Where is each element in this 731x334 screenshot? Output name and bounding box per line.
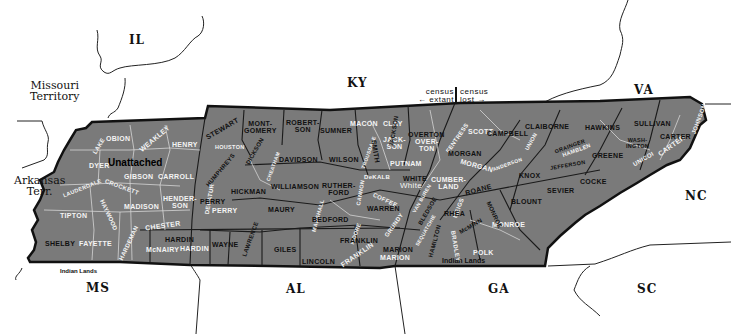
county-morgan: MORGAN bbox=[448, 150, 482, 157]
county-hawkins: HAWKINS bbox=[585, 124, 620, 131]
county-wayne: WAYNE bbox=[212, 241, 239, 248]
county-hardin: HARDIN bbox=[165, 236, 194, 243]
county-shelby: SHELBY bbox=[45, 240, 75, 247]
county-giles: GILES bbox=[274, 246, 297, 253]
county-montgomery-l2: GOMERY bbox=[244, 127, 277, 134]
county-davidson: DAVIDSON bbox=[279, 156, 318, 163]
county-greene: GREENE bbox=[592, 152, 623, 159]
county-robertson-l1: ROBERT- bbox=[286, 119, 320, 126]
census-divider bbox=[455, 87, 457, 104]
county-hardin-modern: HARDIN bbox=[180, 245, 209, 252]
county-robertson-l2: SON bbox=[286, 126, 320, 133]
county-houston: HOUSTON bbox=[215, 145, 245, 151]
county-overton-l2: TON bbox=[415, 145, 439, 152]
county-claiborne: CLAIBORNE bbox=[525, 123, 569, 130]
label-ky: KY bbox=[347, 77, 368, 89]
label-ga: GA bbox=[488, 283, 510, 295]
county-montgomery: MONT- GOMERY bbox=[244, 120, 277, 134]
county-washington-l2: INGTON bbox=[626, 144, 649, 150]
label-missouri-territory: Missouri Territory bbox=[30, 80, 80, 102]
county-gibson: GIBSON bbox=[124, 173, 153, 180]
label-unattached: Unattached bbox=[108, 158, 162, 168]
county-blount: BLOUNT bbox=[511, 198, 542, 205]
county-cocke: COCKE bbox=[580, 178, 607, 185]
county-williamson: WILLIAMSON bbox=[271, 183, 319, 190]
county-dekalb: DeKALB bbox=[364, 174, 390, 180]
county-carroll: CARROLL bbox=[158, 173, 194, 180]
county-macon: MACON bbox=[350, 120, 378, 127]
county-cumberland-l2: LAND bbox=[431, 183, 466, 190]
county-knox: KNOX bbox=[519, 172, 540, 179]
county-marion: MARION bbox=[383, 246, 413, 253]
county-overton: OVERTON bbox=[408, 131, 445, 138]
county-bedford: BEDFORD bbox=[312, 216, 349, 223]
county-hickman: HICKMAN bbox=[231, 188, 266, 195]
label-indian-lands-east: Indian Lands bbox=[442, 257, 485, 264]
census-extant-note: census ← extant bbox=[418, 88, 454, 105]
census-right-line2: lost → bbox=[460, 96, 488, 104]
label-sc: SC bbox=[637, 283, 657, 295]
county-polk: POLK bbox=[473, 249, 494, 256]
census-left-line2: ← extant bbox=[418, 96, 454, 104]
county-rutherford-l1: RUTHER- bbox=[322, 182, 356, 189]
county-overton-l1: OVER- bbox=[415, 138, 439, 145]
county-henry: HENRY bbox=[172, 141, 198, 148]
county-marion-modern: MARION bbox=[380, 254, 410, 261]
label-indian-lands-west: Indian Lands bbox=[60, 268, 97, 274]
label-va: VA bbox=[634, 84, 654, 96]
county-montgomery-l1: MONT- bbox=[244, 120, 277, 127]
county-rhea: RHEA bbox=[444, 210, 465, 217]
county-campbell: CAMPBELL bbox=[487, 130, 528, 137]
label-al: AL bbox=[286, 283, 306, 295]
label-nc: NC bbox=[685, 190, 708, 202]
county-sevier: SEVIER bbox=[547, 187, 574, 194]
county-warren: WARREN bbox=[367, 205, 400, 212]
county-perry-modern: PERRY bbox=[212, 207, 237, 214]
county-wilson: WILSON bbox=[329, 156, 359, 163]
county-robertson: ROBERT- SON bbox=[286, 119, 320, 133]
county-obion: OBION bbox=[106, 135, 130, 142]
county-putnam: PUTNAM bbox=[390, 160, 422, 167]
county-henderson: HENDER- SON bbox=[163, 195, 197, 209]
county-dyer: DYER bbox=[89, 162, 110, 169]
county-overton-modern: OVER- TON bbox=[415, 138, 439, 152]
county-rutherford-l2: FORD bbox=[322, 189, 356, 196]
label-ms: MS bbox=[86, 282, 110, 294]
county-white-modern: White bbox=[400, 182, 422, 190]
county-rutherford: RUTHER- FORD bbox=[322, 182, 356, 196]
county-carter: CARTER bbox=[660, 133, 691, 140]
county-white: WHITE bbox=[403, 175, 427, 182]
county-cumberland: CUMBER- LAND bbox=[431, 176, 466, 190]
county-tipton: TIPTON bbox=[60, 212, 87, 219]
label-arkansas-territory: Arkansas Terr. bbox=[14, 175, 65, 197]
county-washington: WASH- INGTON bbox=[626, 138, 649, 149]
label-missouri-line2: Territory bbox=[30, 91, 80, 102]
census-lost-note: census lost → bbox=[460, 88, 488, 105]
county-maury: MAURY bbox=[268, 206, 295, 213]
label-il: IL bbox=[129, 34, 145, 46]
county-sullivan: SULLIVAN bbox=[634, 120, 671, 127]
label-arkansas-line2: Terr. bbox=[14, 186, 65, 197]
county-fayette: FAYETTE bbox=[79, 240, 112, 247]
county-madison: MADISON bbox=[124, 203, 159, 210]
county-henderson-l1: HENDER- bbox=[163, 195, 197, 202]
tennessee-county-map: IL Missouri Territory Arkansas Terr. KY … bbox=[0, 0, 731, 334]
county-perry: PERRY bbox=[200, 198, 225, 205]
county-mcnairy: McNAIRY bbox=[146, 246, 179, 253]
county-franklin: FRANKLIN bbox=[340, 237, 378, 244]
county-henderson-l2: SON bbox=[163, 202, 197, 209]
county-lincoln: LINCOLN bbox=[302, 258, 335, 265]
county-sumner: SUMNER bbox=[320, 127, 352, 134]
county-cumberland-l1: CUMBER- bbox=[431, 176, 466, 183]
